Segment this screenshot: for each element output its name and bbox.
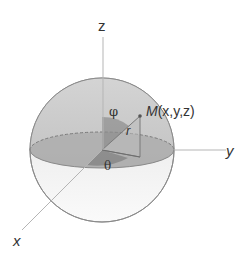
spherical-coordinates-diagram xyxy=(0,0,247,262)
y-axis-label: y xyxy=(226,143,234,158)
point-letter: M xyxy=(146,103,158,119)
theta-label: θ xyxy=(104,160,111,172)
z-axis-label: z xyxy=(98,18,106,33)
phi-label: φ xyxy=(109,105,118,118)
point-m-label: M(x,y,z) xyxy=(146,104,195,118)
point-coords: (x,y,z) xyxy=(158,103,195,119)
x-axis-label: x xyxy=(13,233,21,248)
radius-label: r xyxy=(126,124,130,137)
point-m xyxy=(138,114,142,118)
